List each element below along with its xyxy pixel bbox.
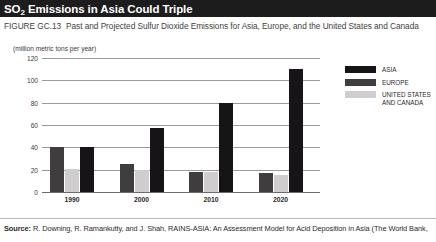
- legend-swatch-asia: [345, 66, 376, 73]
- legend-item-europe: EUROPE: [345, 79, 433, 87]
- bar: [289, 69, 303, 192]
- y-axis-tick-label: 40: [31, 144, 38, 151]
- bar-group: 2020: [251, 58, 321, 192]
- y-axis-tick-label: 80: [31, 99, 38, 106]
- bar: [135, 170, 149, 192]
- title-subscript: 2: [20, 8, 24, 17]
- title-prefix: SO: [4, 3, 20, 15]
- y-axis-units-label: (million metric tons per year): [13, 45, 96, 52]
- legend-label-europe: EUROPE: [382, 79, 409, 87]
- source-text: R. Downing, R. Ramankutty, and J. Shah, …: [33, 224, 428, 233]
- bar-group: 2000: [112, 58, 182, 192]
- legend-label-asia: ASIA: [382, 66, 396, 74]
- page-title: SO2 Emissions in Asia Could Triple: [0, 3, 193, 15]
- bar: [120, 164, 134, 192]
- source-divider: [0, 218, 436, 219]
- legend-swatch-usca: [345, 91, 376, 98]
- bar: [204, 172, 218, 192]
- chart: (million metric tons per year) 020406080…: [0, 40, 436, 218]
- source-label: Source:: [4, 224, 31, 233]
- title-bar: SO2 Emissions in Asia Could Triple: [0, 0, 436, 17]
- bar: [150, 128, 164, 192]
- legend-label-usca: UNITED STATES AND CANADA: [382, 91, 431, 106]
- bar-group: 2010: [181, 58, 251, 192]
- figure-caption-text: Past and Projected Sulfur Dioxide Emissi…: [66, 21, 419, 31]
- y-axis-tick-label: 120: [27, 55, 38, 62]
- y-axis-tick-label: 20: [31, 166, 38, 173]
- bar-groups: 1990200020102020: [42, 58, 320, 192]
- bar: [80, 147, 94, 192]
- bar: [259, 173, 273, 192]
- figure-caption: FIGURE GC.13Past and Projected Sulfur Di…: [4, 21, 434, 31]
- plot-area: 020406080100120 1990200020102020: [42, 58, 320, 192]
- bar: [274, 175, 288, 192]
- bar: [65, 169, 79, 192]
- y-axis-tick-label: 0: [34, 189, 38, 196]
- x-axis-tick-label: 2010: [189, 196, 233, 203]
- source-note: Source:R. Downing, R. Ramankutty, and J.…: [4, 224, 436, 233]
- x-axis-tick-label: 2020: [259, 196, 303, 203]
- x-axis-tick-label: 1990: [50, 196, 94, 203]
- bar: [189, 172, 203, 192]
- legend-swatch-europe: [345, 79, 376, 86]
- bar: [50, 147, 64, 192]
- legend-item-usca: UNITED STATES AND CANADA: [345, 91, 433, 106]
- gridline: 0: [42, 192, 320, 193]
- bar-group: 1990: [42, 58, 112, 192]
- bar: [219, 103, 233, 192]
- x-axis-tick-label: 2000: [120, 196, 164, 203]
- y-axis-tick-label: 100: [27, 77, 38, 84]
- title-rest: Emissions in Asia Could Triple: [25, 3, 193, 15]
- figure-number: FIGURE GC.13: [4, 21, 61, 31]
- legend-item-asia: ASIA: [345, 66, 433, 74]
- y-axis-tick-label: 60: [31, 122, 38, 129]
- legend: ASIAEUROPEUNITED STATES AND CANADA: [345, 66, 433, 111]
